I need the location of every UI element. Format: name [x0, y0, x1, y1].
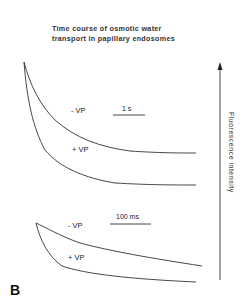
bottom-plus-vp-trace — [36, 223, 196, 282]
bottom-scale-bar-label: 100 ms — [116, 213, 139, 220]
bottom-plus-vp-label: + VP — [68, 253, 84, 262]
top-minus-vp-label: - VP — [71, 106, 86, 115]
bottom-minus-vp-trace — [36, 223, 202, 266]
panel-label: B — [10, 282, 20, 298]
top-plus-vp-label: + VP — [72, 145, 88, 154]
top-scale-bar-label: 1 s — [122, 105, 131, 112]
top-minus-vp-trace — [24, 62, 196, 153]
bottom-minus-vp-label: - VP — [68, 221, 83, 230]
y-axis-label: Fluorescence intensity — [228, 112, 235, 222]
top-plus-vp-trace — [24, 62, 196, 185]
arrow-head-icon — [218, 62, 223, 70]
plot-area — [0, 0, 246, 307]
